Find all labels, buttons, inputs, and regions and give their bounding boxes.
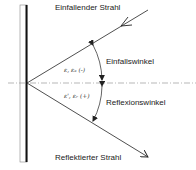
- reflection-angle-label: Reflexionswinkel: [106, 98, 166, 107]
- incidence-angle-symbol: ε, εₑ (-): [64, 66, 85, 73]
- incident-ray-label: Einfallender Strahl: [55, 3, 120, 12]
- incident-ray: [27, 10, 148, 83]
- reflection-diagram: [0, 0, 196, 170]
- incidence-angle-arc: [93, 45, 102, 80]
- reflection-angle-arc: [93, 86, 102, 121]
- reflected-ray-label: Reflektierter Strahl: [55, 153, 121, 162]
- reflection-angle-symbol: ε', εᵣ (+): [64, 92, 90, 99]
- incidence-angle-label: Einfallswinkel: [106, 57, 154, 66]
- incident-arrowhead: [121, 17, 132, 26]
